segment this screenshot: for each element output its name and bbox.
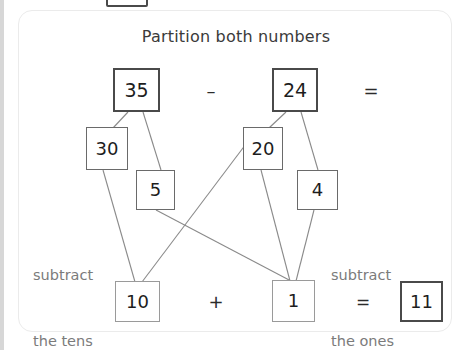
numbox-minuend-tens: 30 <box>86 127 128 170</box>
bottom-equals-operator: = <box>352 294 374 311</box>
numbox-minuend: 35 <box>113 68 160 112</box>
numbox-tens-result-value: 10 <box>126 293 149 311</box>
numbox-subtrahend-tens-value: 20 <box>252 140 275 158</box>
numbox-subtrahend-ones: 4 <box>297 170 338 210</box>
numbox-subtrahend-tens: 20 <box>243 127 283 170</box>
label-subtract-the-ones-line1: subtract <box>331 264 394 286</box>
numbox-subtrahend-value: 24 <box>283 81 307 100</box>
numbox-tens-result: 10 <box>115 281 160 322</box>
label-subtract-the-ones-line2: the ones <box>331 330 394 350</box>
minus-operator: – <box>200 82 222 100</box>
left-edge-strip <box>0 0 4 350</box>
numbox-total-value: 11 <box>410 293 433 311</box>
plus-operator: + <box>205 293 227 311</box>
numbox-minuend-value: 35 <box>124 81 148 100</box>
top-equals-operator: = <box>360 82 382 100</box>
label-subtract-the-tens-line1: subtract <box>33 264 93 286</box>
label-subtract-the-ones: subtract the ones <box>331 220 394 350</box>
label-subtract-the-tens-line2: the tens <box>33 330 93 350</box>
label-subtract-the-tens: subtract the tens <box>33 220 93 350</box>
numbox-ones-result-value: 1 <box>288 292 299 310</box>
numbox-subtrahend-ones-value: 4 <box>312 181 323 199</box>
numbox-subtrahend: 24 <box>272 68 318 112</box>
clipped-box-above-card <box>106 0 148 7</box>
numbox-minuend-ones-value: 5 <box>150 181 161 199</box>
numbox-minuend-ones: 5 <box>136 170 175 210</box>
numbox-total: 11 <box>400 281 443 322</box>
numbox-minuend-tens-value: 30 <box>96 140 119 158</box>
numbox-ones-result: 1 <box>272 280 315 322</box>
worksheet-canvas: Partition both numbers 35 – 24 = 30 20 <box>0 0 470 350</box>
page-title: Partition both numbers <box>19 27 453 46</box>
